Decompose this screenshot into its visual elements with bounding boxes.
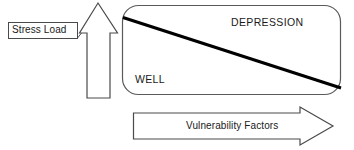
stress-load-label: Stress Load — [12, 25, 66, 35]
well-region-label: WELL — [135, 74, 165, 85]
stress-load-arrow — [80, 3, 118, 98]
vulnerability-factors-label: Vulnerability Factors — [186, 121, 278, 131]
depression-region-label: DEPRESSION — [231, 17, 303, 28]
stress-vulnerability-diagram: Stress Load DEPRESSION WELL Vulnerabilit… — [0, 0, 354, 150]
